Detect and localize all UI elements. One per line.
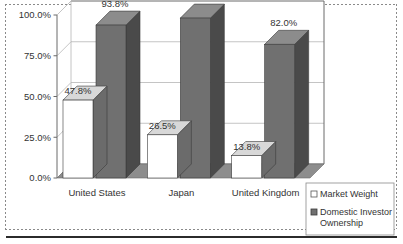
bar-market-2-front[interactable] <box>232 156 262 178</box>
bar-market-0-front[interactable] <box>63 100 93 178</box>
value-label-market-2: 13.8% <box>233 141 260 152</box>
value-label-market-0: 47.8% <box>65 85 92 96</box>
y-axis-label-0: 100.0% <box>19 9 52 20</box>
value-label-domestic-2: 82.0% <box>270 17 297 28</box>
y-axis-label-4: 0.0% <box>29 172 51 183</box>
category-label-1: Japan <box>168 187 194 198</box>
bar-domestic-1-side <box>210 4 224 178</box>
bar-domestic-0-side <box>126 11 140 178</box>
category-label-0: United States <box>68 187 125 198</box>
bar-domestic-2-side <box>295 30 309 178</box>
gridline-depth-0 <box>57 1 71 15</box>
gridline-depth-1 <box>57 42 71 56</box>
y-axis-label-1: 75.0% <box>24 50 51 61</box>
chart-page: 100.0%75.0%50.0%25.0%0.0% 82.0%13.8%98.1… <box>0 0 403 244</box>
legend-label-domestic-ownership-line2[interactable]: Ownership <box>320 218 363 228</box>
value-label-domestic-1: 98.1% <box>186 0 213 2</box>
value-label-market-1: 26.5% <box>149 120 176 131</box>
bar-market-1-front[interactable] <box>147 135 177 178</box>
y-axis-label-2: 50.0% <box>24 91 51 102</box>
bar-chart-3d: 100.0%75.0%50.0%25.0%0.0% 82.0%13.8%98.1… <box>0 0 403 244</box>
bar-market-0-side <box>93 86 107 178</box>
category-label-2: United Kingdom <box>232 187 300 198</box>
legend-swatch-domestic-ownership[interactable] <box>311 209 317 215</box>
y-axis-tick-labels: 100.0%75.0%50.0%25.0%0.0% <box>19 9 52 183</box>
chart-legend[interactable]: Market WeightDomestic InvestorOwnership <box>306 183 394 235</box>
legend-label-domestic-ownership[interactable]: Domestic Investor <box>320 207 392 217</box>
legend-swatch-market-weight[interactable] <box>311 191 317 197</box>
value-label-domestic-0: 93.8% <box>102 0 129 9</box>
y-axis-label-3: 25.0% <box>24 132 51 143</box>
legend-label-market-weight[interactable]: Market Weight <box>320 189 378 199</box>
category-label-group: United KingdomJapanUnited States <box>68 187 299 198</box>
